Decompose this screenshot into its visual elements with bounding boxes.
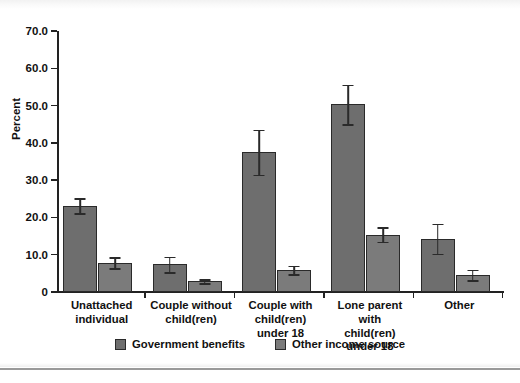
y-axis-title: Percent <box>10 98 22 140</box>
x-axis-category-label: Couple withoutchild(ren) <box>146 299 235 327</box>
x-axis-tick-mark <box>144 292 145 298</box>
error-bar-cap-upper <box>467 270 478 272</box>
legend-swatch <box>275 339 286 350</box>
x-axis-tick-mark <box>413 292 414 298</box>
bar-group <box>415 31 504 292</box>
x-axis-category-label: Unattachedindividual <box>57 299 146 327</box>
y-axis-tick-label: 0 <box>42 286 48 298</box>
bar <box>63 206 97 293</box>
x-axis-tick-mark <box>234 292 235 298</box>
x-axis-category-label-line: Unattached <box>57 299 146 313</box>
bar <box>331 104 365 292</box>
x-axis-category-label-line: Couple with <box>236 299 325 313</box>
error-bar <box>169 257 171 273</box>
error-bar <box>79 198 81 213</box>
y-axis-tick-label: 50.0 <box>26 100 48 112</box>
page-bottom-rule <box>0 368 520 370</box>
error-bar-cap-lower <box>164 272 175 274</box>
x-axis-category-label-line: Couple without <box>146 299 235 313</box>
x-axis-category-label-line: individual <box>57 313 146 327</box>
y-axis-tick-label: 20.0 <box>26 211 48 223</box>
scan-artifact-top <box>0 0 520 9</box>
error-bar-cap-upper <box>110 257 121 259</box>
bar-group <box>57 31 146 292</box>
bar-group <box>325 31 414 292</box>
error-bar-cap-upper <box>253 130 264 132</box>
legend-label: Government benefits <box>132 338 245 350</box>
error-bar-cap-lower <box>75 213 86 215</box>
y-axis-tick-label: 40.0 <box>26 137 48 149</box>
chart-legend: Government benefitsOther income source <box>0 338 520 350</box>
error-bar-cap-upper <box>288 266 299 268</box>
legend-label: Other income source <box>292 338 405 350</box>
y-axis-tick-label: 30.0 <box>26 174 48 186</box>
error-bar-cap-lower <box>288 274 299 276</box>
error-bar-cap-lower <box>467 280 478 282</box>
bar-chart-figure: Percent 010.020.030.040.050.060.070.0 Un… <box>0 0 520 383</box>
x-axis-category-label: Other <box>415 299 504 313</box>
error-bar-cap-upper <box>432 224 443 226</box>
y-axis-tick-label: 10.0 <box>26 249 48 261</box>
legend-item: Government benefits <box>115 338 245 350</box>
bar-groups <box>57 31 504 292</box>
error-bar-cap-lower <box>199 283 210 285</box>
x-axis-category-label-line: Lone parent with <box>325 299 414 327</box>
error-bar <box>258 130 260 175</box>
error-bar-cap-lower <box>378 242 389 244</box>
error-bar-cap-lower <box>432 254 443 256</box>
error-bar-cap-lower <box>343 124 354 126</box>
error-bar-cap-lower <box>253 175 264 177</box>
error-bar <box>114 257 116 268</box>
x-axis-category-label-line: child(ren) <box>146 313 235 327</box>
x-axis-category-label: Couple withchild(ren)under 18 <box>236 299 325 340</box>
legend-item: Other income source <box>275 338 405 350</box>
x-axis-category-label-line: child(ren) <box>236 313 325 327</box>
error-bar-cap-upper <box>343 85 354 87</box>
bar-group <box>236 31 325 292</box>
error-bar-cap-upper <box>378 227 389 229</box>
error-bar-cap-upper <box>75 198 86 200</box>
error-bar <box>348 85 350 125</box>
x-axis-tick-mark <box>502 292 503 298</box>
error-bar <box>383 227 385 241</box>
x-axis-tick-mark <box>323 292 324 298</box>
x-axis-category-label-line: Other <box>415 299 504 313</box>
page-rule-soft <box>0 363 520 367</box>
error-bar-cap-lower <box>110 268 121 270</box>
y-axis-tick-label: 60.0 <box>26 62 48 74</box>
y-axis-tick-label: 70.0 <box>26 25 48 37</box>
legend-swatch <box>115 339 126 350</box>
error-bar <box>437 224 439 254</box>
error-bar-cap-upper <box>199 279 210 281</box>
bar-group <box>146 31 235 292</box>
error-bar-cap-upper <box>164 257 175 259</box>
